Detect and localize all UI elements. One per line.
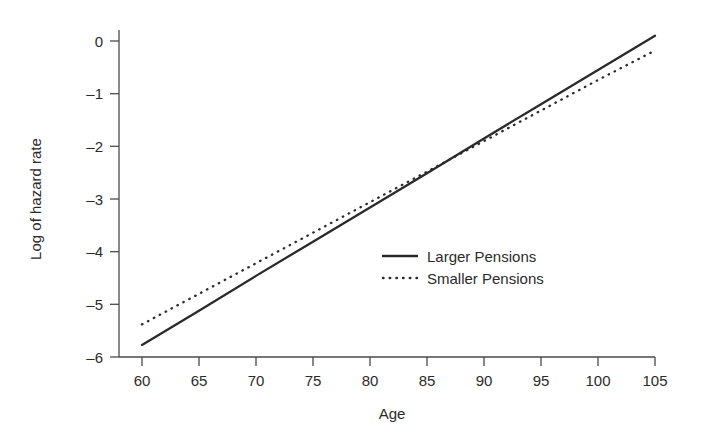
x-tick-label-70: 70: [248, 372, 265, 389]
x-tick-label-75: 75: [305, 372, 322, 389]
y-axis-title: Log of hazard rate: [27, 138, 44, 260]
x-tick-label-80: 80: [362, 372, 379, 389]
series-line-larger-pensions: [142, 36, 655, 345]
x-axis-tick-labels: 60 65 70 75 80 85 90 95 100 105: [134, 372, 668, 389]
legend-label-smaller-pensions: Smaller Pensions: [427, 270, 544, 287]
x-axis-title: Age: [379, 405, 406, 422]
x-tick-label-95: 95: [533, 372, 550, 389]
y-tick-label-1: –1: [86, 85, 103, 102]
line-chart-canvas: 0 –1 –2 –3 –4 –5 –6 60 65 70 75: [0, 0, 702, 434]
x-tick-label-100: 100: [585, 372, 610, 389]
x-tick-label-90: 90: [476, 372, 493, 389]
x-tick-label-85: 85: [419, 372, 436, 389]
x-tick-label-60: 60: [134, 372, 151, 389]
y-axis-tick-labels: 0 –1 –2 –3 –4 –5 –6: [86, 33, 103, 366]
y-tick-label-6: –6: [86, 349, 103, 366]
y-axis-ticks: [110, 41, 119, 357]
legend-label-larger-pensions: Larger Pensions: [427, 248, 536, 265]
y-tick-label-3: –3: [86, 191, 103, 208]
chart-legend: Larger Pensions Smaller Pensions: [382, 248, 544, 287]
y-tick-label-5: –5: [86, 296, 103, 313]
x-tick-label-65: 65: [191, 372, 208, 389]
y-tick-label-2: –2: [86, 138, 103, 155]
x-axis-ticks: [142, 357, 655, 366]
y-tick-label-0: 0: [95, 33, 103, 50]
chart-figure: 0 –1 –2 –3 –4 –5 –6 60 65 70 75: [0, 0, 702, 434]
series-line-smaller-pensions: [142, 50, 655, 324]
data-series-group: [142, 36, 655, 345]
x-tick-label-105: 105: [642, 372, 667, 389]
y-tick-label-4: –4: [86, 243, 103, 260]
